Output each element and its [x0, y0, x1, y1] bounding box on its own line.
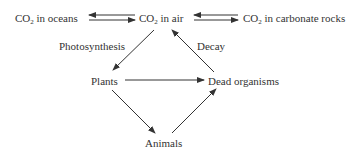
arrow-animals-to-dead	[172, 89, 216, 133]
edge-label-decay: Decay	[197, 40, 225, 52]
node-co2-oceans: CO2 in oceans	[15, 12, 78, 24]
node-co2-air: CO2 in air	[139, 12, 183, 24]
node-co2-carbonate-rocks: CO2 in carbonate rocks	[243, 12, 345, 24]
node-animals: Animals	[145, 137, 182, 149]
node-dead-organisms: Dead organisms	[208, 75, 279, 87]
arrow-plants-to-animals	[112, 90, 155, 133]
edge-label-photosynthesis: Photosynthesis	[59, 40, 125, 52]
node-plants: Plants	[91, 75, 118, 87]
